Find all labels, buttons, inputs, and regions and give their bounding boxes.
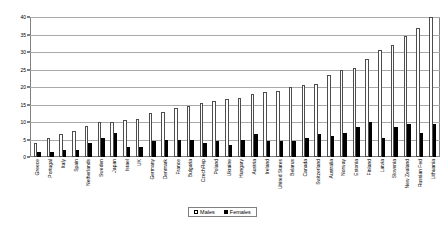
bar-group (146, 17, 159, 157)
bar-females (420, 133, 424, 158)
x-axis-label-cell: Netherlands (82, 158, 95, 206)
x-axis-tick-label: Bulgaria (188, 159, 193, 177)
y-axis-tick-label: 20 (20, 85, 26, 90)
bar-series-container (30, 17, 440, 157)
bar-females (127, 147, 131, 158)
x-axis-tick-label: Ireland (264, 159, 269, 174)
x-axis-tick-label: Hungary (239, 159, 244, 178)
x-axis-label-cell: Ireland (261, 158, 274, 206)
bar-group (57, 17, 70, 157)
x-axis-tick-label: Japan (111, 159, 116, 173)
x-axis-label-cell: Denmark (159, 158, 172, 206)
bar-group (184, 17, 197, 157)
bar-group (44, 17, 57, 157)
x-axis-tick-label: Greece (35, 159, 40, 175)
bar-group (210, 17, 223, 157)
bar-group (95, 17, 108, 157)
bar-females (178, 140, 182, 158)
legend-label-females: Females (230, 209, 251, 215)
x-axis-label-cell: UK (133, 158, 146, 206)
bar-group (133, 17, 146, 157)
x-axis-tick-label: Australia (328, 159, 333, 178)
x-axis-label-cell: France (171, 158, 184, 206)
bar-group (324, 17, 337, 157)
bar-females (394, 127, 398, 157)
x-axis-label-cell: Bulgaria (184, 158, 197, 206)
bar-females (101, 138, 105, 157)
bar-group (31, 17, 44, 157)
x-axis-label-cell: Australia (324, 158, 337, 206)
bar-females (114, 133, 118, 158)
x-axis-label-cell: Lithuania (426, 158, 439, 206)
x-axis-label-cell: CzechRep (197, 158, 210, 206)
x-axis-tick-label: CzechRep (201, 159, 206, 182)
bar-females (433, 124, 437, 157)
x-axis-tick-label: Italy (60, 159, 65, 168)
x-axis-tick-label: Portugal (48, 159, 53, 178)
bar-group (69, 17, 82, 157)
bar-group (414, 17, 427, 157)
bar-females (63, 150, 67, 157)
bar-females (216, 141, 220, 157)
y-axis-tick-label: 25 (20, 67, 26, 72)
bar-females (267, 141, 271, 157)
x-axis-label-cell: Latvia (375, 158, 388, 206)
bar-females (292, 141, 296, 157)
bar-females (203, 143, 207, 157)
legend-entry-females: Females (224, 209, 251, 215)
x-axis-tick-label: Germany (150, 159, 155, 180)
bar-group (261, 17, 274, 157)
bar-group (82, 17, 95, 157)
bar-females (331, 136, 335, 157)
bar-group (273, 17, 286, 157)
x-axis-label-cell: Sweden (95, 158, 108, 206)
bar-group (312, 17, 325, 157)
bar-group (120, 17, 133, 157)
bar-group (388, 17, 401, 157)
x-axis-tick-label: Belarus (290, 159, 295, 176)
bar-females (318, 134, 322, 157)
x-axis-tick-label: UK (137, 159, 142, 166)
bar-females (50, 152, 54, 157)
x-axis-labels: GreecePortugalItalySpainNetherlandsSwede… (30, 158, 440, 206)
bar-group (426, 17, 439, 157)
x-axis-label-cell: New Zealand (401, 158, 414, 206)
x-axis-label-cell: Austria (248, 158, 261, 206)
bar-group (337, 17, 350, 157)
x-axis-label-cell: Estonia (350, 158, 363, 206)
x-axis-label-cell: Ukraine (222, 158, 235, 206)
legend-entry-males: Males (194, 209, 215, 215)
x-axis-tick-label: New Zealand (405, 159, 410, 188)
bar-group (159, 17, 172, 157)
bar-females (152, 141, 156, 157)
x-axis-tick-label: Lithuania (430, 159, 435, 179)
bar-females (37, 152, 41, 157)
x-axis-label-cell: Japan (108, 158, 121, 206)
bar-group (222, 17, 235, 157)
x-axis-tick-label: Canada (303, 159, 308, 177)
x-axis-label-cell: Russian Fed (414, 158, 427, 206)
y-axis-tick-label: 5 (23, 137, 26, 142)
x-axis-tick-label: Netherlands (86, 159, 91, 186)
bar-group (375, 17, 388, 157)
bar-females (190, 140, 194, 158)
x-axis-label-cell: Poland (210, 158, 223, 206)
y-axis-tick-label: 15 (20, 102, 26, 107)
x-axis-tick-label: United States (277, 159, 282, 189)
bar-group (286, 17, 299, 157)
bar-females (280, 141, 284, 157)
legend-swatch-females-icon (224, 210, 228, 214)
x-axis-label-cell: Israel (120, 158, 133, 206)
bar-group (171, 17, 184, 157)
x-axis-label-cell: United States (273, 158, 286, 206)
x-axis-label-cell: Switzerland (312, 158, 325, 206)
x-axis-label-cell: Canada (299, 158, 312, 206)
bar-females (305, 138, 309, 157)
x-axis-label-cell: Belarus (286, 158, 299, 206)
bar-group (350, 17, 363, 157)
x-axis-tick-label: France (175, 159, 180, 175)
bar-group (248, 17, 261, 157)
x-axis-label-cell: Slovenia (388, 158, 401, 206)
x-axis-tick-label: Israel (124, 159, 129, 171)
y-axis-tick-label: 0 (23, 155, 26, 160)
